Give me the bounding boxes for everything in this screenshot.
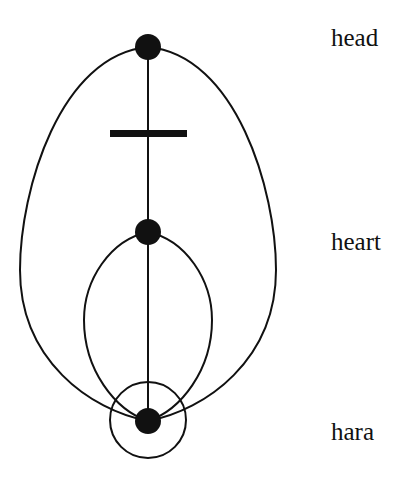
- head-label: head: [331, 24, 378, 52]
- crossbar: [110, 130, 187, 137]
- heart-node: [135, 219, 161, 245]
- heart-label: heart: [331, 228, 381, 256]
- head-node: [135, 34, 161, 60]
- hara-label: hara: [331, 418, 374, 446]
- hara-node: [135, 408, 161, 434]
